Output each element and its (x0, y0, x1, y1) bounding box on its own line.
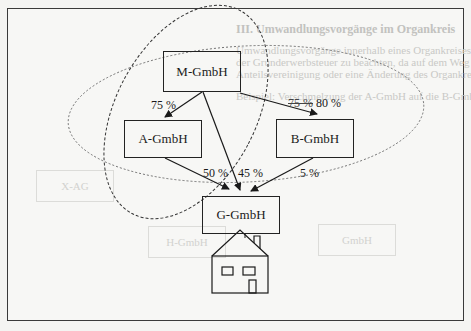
entity-label: A-GmbH (138, 131, 187, 147)
edge-label-m-b-old: 75 % (288, 96, 313, 111)
entity-label: M-GmbH (176, 64, 227, 80)
edge-label-m-b: 80 % (316, 96, 341, 111)
house-icon (212, 230, 268, 293)
entity-label: G-GmbH (216, 207, 265, 223)
edge-label-b-g: 5 % (300, 166, 319, 181)
entity-label: B-GmbH (291, 131, 339, 147)
entity-g-gmbh: G-GmbH (202, 196, 280, 234)
entity-b-gmbh: B-GmbH (276, 119, 354, 158)
entity-m-gmbh: M-GmbH (163, 51, 241, 92)
edge-label-a-g: 50 % (203, 166, 228, 181)
edge-label-m-g: 45 % (238, 166, 263, 181)
edge-label-m-a: 75 % (151, 98, 176, 113)
entity-a-gmbh: A-GmbH (124, 120, 202, 158)
diagram-connectors (0, 0, 471, 331)
